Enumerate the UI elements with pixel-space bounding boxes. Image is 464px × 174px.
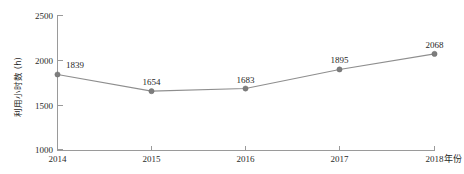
data-point-2018 bbox=[432, 51, 437, 56]
data-label-2016: 1683 bbox=[237, 75, 256, 85]
x-axis-group: 2014 2015 2016 2017 2018 年份 bbox=[49, 146, 463, 165]
series-group: 1839 1654 1683 1895 2068 bbox=[55, 40, 444, 94]
x-axis-title: 年份 bbox=[444, 153, 462, 164]
data-point-2015 bbox=[149, 89, 154, 94]
data-point-2016 bbox=[243, 86, 248, 91]
data-label-2015: 1654 bbox=[143, 77, 162, 87]
x-tick-label-2015: 2015 bbox=[143, 154, 162, 164]
data-label-2014: 1839 bbox=[66, 60, 85, 70]
data-label-2017: 1895 bbox=[331, 55, 350, 65]
data-point-2017 bbox=[337, 67, 342, 72]
x-tick-label-2017: 2017 bbox=[331, 154, 350, 164]
data-label-2018: 2068 bbox=[426, 40, 445, 50]
y-tick-label-2000: 2000 bbox=[35, 56, 54, 66]
y-axis-title: 利用小时数 (h) bbox=[13, 57, 23, 117]
series-line-utilization-hours bbox=[58, 54, 435, 91]
y-axis-group: 2500 2000 1500 1000 利用小时数 (h) bbox=[13, 11, 63, 155]
x-tick-label-2018: 2018 bbox=[426, 154, 445, 164]
line-chart-figure: 2500 2000 1500 1000 利用小时数 (h) 2014 2015 … bbox=[0, 0, 464, 174]
chart-canvas: 2500 2000 1500 1000 利用小时数 (h) 2014 2015 … bbox=[0, 0, 464, 174]
x-tick-label-2014: 2014 bbox=[49, 154, 68, 164]
y-tick-label-1500: 1500 bbox=[35, 101, 54, 111]
x-tick-label-2016: 2016 bbox=[237, 154, 256, 164]
y-tick-label-2500: 2500 bbox=[35, 11, 54, 21]
data-point-2014 bbox=[55, 72, 60, 77]
y-tick-label-1000: 1000 bbox=[35, 145, 54, 155]
